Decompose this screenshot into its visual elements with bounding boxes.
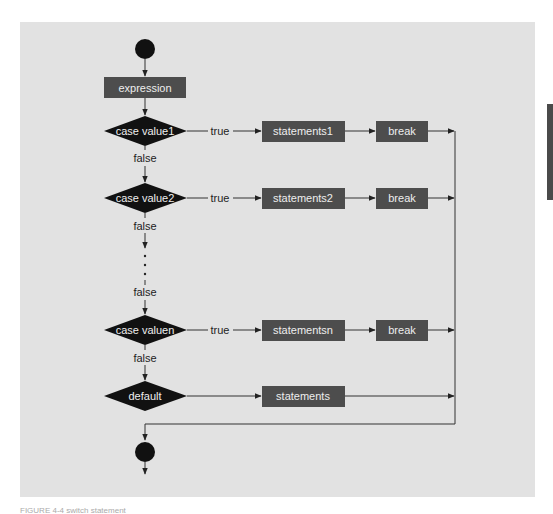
start-node	[135, 39, 155, 59]
case-valuen-diamond: case valuen	[104, 315, 187, 345]
false-label: false	[133, 352, 156, 364]
break2-box: break	[376, 188, 428, 209]
default-diamond: default	[104, 381, 187, 411]
expression-box: expression	[104, 77, 186, 98]
statementsn-box: statementsn	[262, 320, 345, 341]
svg-text:statements2: statements2	[273, 192, 333, 204]
svg-text:case value1: case value1	[116, 125, 175, 137]
false-label: false	[133, 286, 156, 298]
true-label: true	[211, 324, 230, 336]
svg-text:statementsn: statementsn	[273, 324, 333, 336]
true-label: true	[211, 192, 230, 204]
true-label: true	[211, 125, 230, 137]
svg-text:statements1: statements1	[273, 125, 333, 137]
default-statements-box: statements	[262, 386, 345, 407]
end-node	[135, 442, 155, 462]
svg-text:break: break	[388, 192, 416, 204]
svg-text:case value2: case value2	[116, 192, 175, 204]
statements1-box: statements1	[262, 121, 345, 142]
switch-flowchart: expression case value1 true statements1 …	[0, 0, 553, 514]
svg-text:break: break	[388, 125, 416, 137]
break1-box: break	[376, 121, 428, 142]
case-value1-diamond: case value1	[104, 116, 187, 146]
svg-text:default: default	[128, 390, 161, 402]
statements2-box: statements2	[262, 188, 345, 209]
svg-text:expression: expression	[118, 82, 171, 94]
svg-text:break: break	[388, 324, 416, 336]
false-label: false	[133, 220, 156, 232]
case-value2-diamond: case value2	[104, 183, 187, 213]
svg-text:statements: statements	[276, 390, 330, 402]
false-label: false	[133, 152, 156, 164]
breakn-box: break	[376, 320, 428, 341]
figure-caption: FIGURE 4-4 switch statement	[20, 506, 126, 514]
ellipsis-dots	[144, 255, 146, 285]
svg-text:case valuen: case valuen	[116, 324, 175, 336]
